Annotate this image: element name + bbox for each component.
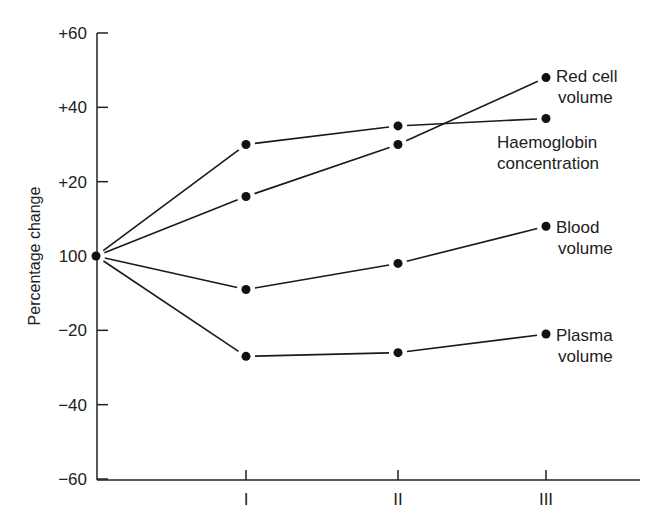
series-segment — [103, 261, 238, 351]
y-tick-label: 100 — [59, 247, 87, 266]
data-point — [242, 140, 251, 149]
data-point — [394, 140, 403, 149]
y-axis-label: Percentage change — [26, 187, 43, 326]
series-lines — [103, 81, 538, 356]
series-labels: Red cellvolumeHaemoglobinconcentrationBl… — [497, 67, 617, 366]
data-point — [542, 330, 551, 339]
y-tick-label: −60 — [58, 470, 87, 489]
data-point — [394, 348, 403, 357]
y-tick-label: +40 — [58, 98, 87, 117]
series-segment — [406, 81, 538, 140]
data-point — [242, 192, 251, 201]
series-label: Red cell — [556, 67, 617, 86]
line-chart: +60+40+20100−20−40−60 IIIIII Percentage … — [0, 0, 656, 521]
series-label: Blood — [556, 218, 599, 237]
series-segment — [255, 353, 389, 356]
x-tick-label: II — [393, 490, 402, 509]
data-point — [542, 222, 551, 231]
series-label: concentration — [497, 154, 599, 173]
data-points — [92, 73, 551, 361]
data-point — [242, 352, 251, 361]
series-label: volume — [558, 347, 613, 366]
data-point — [542, 73, 551, 82]
y-ticks: +60+40+20100−20−40−60 — [58, 24, 108, 489]
series-segment — [105, 258, 237, 288]
x-tick-label: I — [244, 490, 249, 509]
series-segment — [104, 200, 237, 253]
series-segment — [255, 147, 390, 193]
y-tick-label: −40 — [58, 396, 87, 415]
x-ticks: IIIIII — [244, 470, 553, 509]
series-label: Haemoglobin — [497, 133, 597, 152]
series-label: Plasma — [556, 326, 613, 345]
x-tick-label: III — [539, 490, 553, 509]
data-point — [242, 285, 251, 294]
data-point — [542, 114, 551, 123]
y-tick-label: +60 — [58, 24, 87, 43]
data-point — [92, 252, 101, 261]
series-segment — [407, 335, 537, 351]
y-tick-label: +20 — [58, 173, 87, 192]
series-segment — [407, 228, 538, 261]
series-label: volume — [558, 239, 613, 258]
series-segment — [407, 119, 537, 126]
series-label: volume — [558, 88, 613, 107]
data-point — [394, 259, 403, 268]
series-segment — [103, 150, 239, 251]
y-tick-label: −20 — [58, 321, 87, 340]
data-point — [394, 121, 403, 130]
series-segment — [255, 127, 389, 143]
series-segment — [255, 265, 389, 288]
